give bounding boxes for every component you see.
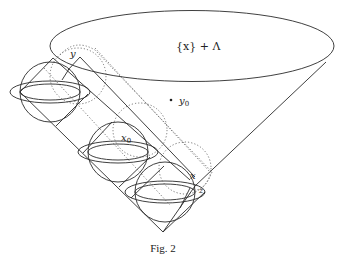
label-y0: y0 <box>178 95 189 108</box>
label-x: x <box>190 170 196 181</box>
diagram-canvas: {x} + Λ y y0 x0 x z Fig. 2 <box>0 0 354 259</box>
figure-2: {x} + Λ y y0 x0 x z Fig. 2 <box>0 0 354 259</box>
dotted-band-rectangle <box>60 45 212 190</box>
label-y: y <box>69 48 76 59</box>
label-x0: x0 <box>121 132 131 145</box>
sphere-middle <box>78 122 158 182</box>
label-set: {x} + Λ <box>176 40 221 53</box>
figure-caption: Fig. 2 <box>150 242 176 254</box>
divider-2 <box>83 122 112 153</box>
radius-y <box>62 69 69 80</box>
sphere-top <box>10 62 90 122</box>
cone-right-edge <box>195 62 326 186</box>
radius-z <box>180 188 190 208</box>
label-z: z <box>198 186 204 195</box>
point-y0 <box>170 99 173 102</box>
dotted-sphere-middle <box>113 103 167 157</box>
